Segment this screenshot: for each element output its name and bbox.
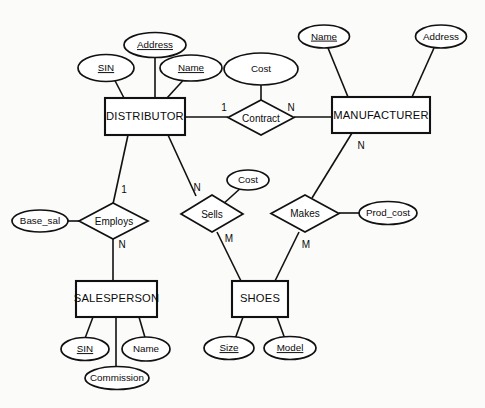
entity-salesperson[interactable]: SALESPERSON: [74, 281, 160, 317]
entity-salesperson-label: SALESPERSON: [74, 292, 160, 304]
cardinality-distributor-sells: N: [193, 182, 200, 193]
attribute-salesperson-name-label: Name: [133, 343, 160, 354]
entity-distributor-label: DISTRIBUTOR: [106, 110, 184, 122]
cardinality-distributor-contract: 1: [221, 102, 227, 113]
attribute-manufacturer-name[interactable]: Name: [299, 25, 350, 48]
connector-manufacturer-address: [412, 48, 434, 97]
connector-shoes-size: [235, 317, 243, 339]
attribute-salesperson-commission-label: Commission: [90, 372, 144, 383]
attribute-distributor-name-label: Name: [178, 62, 205, 73]
attribute-distributor-sin-label: SIN: [98, 62, 114, 73]
connector-distributor-sells: [168, 135, 196, 196]
connector-shoes-model: [277, 317, 285, 339]
attribute-makes-prod-cost[interactable]: Prod_cost: [359, 202, 417, 225]
relationship-contract-label: Contract: [242, 113, 280, 124]
connector-makes-shoes: [275, 232, 299, 281]
attribute-distributor-address[interactable]: Address: [124, 33, 186, 58]
attribute-distributor-address-label: Address: [137, 39, 173, 50]
relationship-employs-label: Employs: [95, 216, 133, 227]
attribute-shoes-size[interactable]: Size: [204, 337, 254, 360]
attribute-distributor-sin[interactable]: SIN: [78, 55, 134, 82]
attribute-employs-base-sal-label: Base_sal: [20, 215, 60, 226]
relationship-makes-label: Makes: [290, 208, 319, 219]
relationship-sells-label: Sells: [201, 209, 223, 220]
attribute-sells-cost-label: Cost: [238, 174, 258, 185]
attribute-manufacturer-name-label: Name: [311, 31, 338, 42]
attribute-sells-cost[interactable]: Cost: [227, 170, 269, 190]
attribute-manufacturer-address[interactable]: Address: [416, 25, 467, 48]
attribute-distributor-name[interactable]: Name: [160, 55, 222, 81]
entity-shoes-label: SHOES: [240, 292, 280, 304]
cardinality-sells-shoes: M: [225, 233, 233, 244]
relationship-sells[interactable]: Sells: [181, 195, 243, 232]
connector-manufacturer-makes: [312, 133, 352, 198]
attribute-makes-prod-cost-label: Prod_cost: [366, 207, 410, 218]
attribute-shoes-model-label: Model: [277, 342, 304, 353]
cardinality-makes-shoes: M: [302, 239, 310, 250]
relationship-makes[interactable]: Makes: [271, 195, 339, 232]
attribute-shoes-model[interactable]: Model: [264, 337, 316, 360]
attribute-contract-cost[interactable]: Cost: [224, 53, 298, 85]
attribute-manufacturer-address-label: Address: [423, 31, 459, 42]
cardinality-manufacturer-makes: N: [357, 140, 364, 151]
attribute-shoes-size-label: Size: [219, 342, 239, 353]
entity-shoes[interactable]: SHOES: [232, 281, 288, 317]
connector-manufacturer-name: [328, 48, 348, 97]
attribute-salesperson-sin[interactable]: SIN: [61, 338, 109, 361]
entity-manufacturer[interactable]: MANUFACTURER: [332, 97, 430, 133]
cardinality-contract-manufacturer: N: [287, 102, 294, 113]
entity-manufacturer-label: MANUFACTURER: [333, 109, 429, 121]
attribute-contract-cost-label: Cost: [251, 63, 271, 74]
entity-distributor[interactable]: DISTRIBUTOR: [105, 98, 185, 135]
cardinality-employs-salesperson: N: [118, 239, 125, 250]
er-diagram-canvas: DISTRIBUTOR MANUFACTURER SALESPERSON SHO…: [0, 0, 485, 408]
relationship-employs[interactable]: Employs: [79, 203, 148, 239]
attribute-employs-base-sal[interactable]: Base_sal: [12, 210, 68, 232]
cardinality-distributor-employs: 1: [121, 184, 127, 195]
attribute-salesperson-name[interactable]: Name: [122, 337, 170, 361]
relationship-contract[interactable]: Contract: [228, 100, 294, 135]
attribute-salesperson-commission[interactable]: Commission: [85, 367, 149, 390]
attribute-salesperson-sin-label: SIN: [77, 343, 93, 354]
